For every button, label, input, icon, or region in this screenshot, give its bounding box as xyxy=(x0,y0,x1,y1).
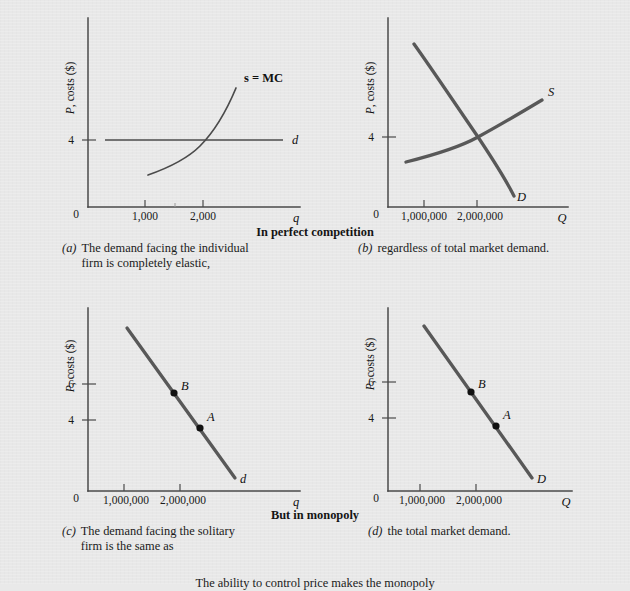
panel-c-xtick-label-1: 2,000,000 xyxy=(160,494,206,507)
panel-a-mc-curve xyxy=(148,88,236,175)
panel-a-ytick-label-0: 4 xyxy=(68,134,74,146)
panel-b-curve-label-d: D xyxy=(516,190,526,204)
band-but-in-monopoly: But in monopoly xyxy=(0,508,630,523)
panel-b-y-axis-title: P, costs ($) xyxy=(364,62,377,116)
panel-b-xtick-label-0: 1,000,000 xyxy=(401,210,447,223)
panel-a-origin-label: 0 xyxy=(73,208,79,220)
caption-c-letter: (c) xyxy=(62,524,76,539)
panel-c: 6 4 0 1,000,000 2,000,000 P, costs ($) q… xyxy=(0,288,320,518)
caption-c-line1: The demand facing the solitary xyxy=(81,524,235,538)
panel-b-origin-label: 0 xyxy=(373,208,379,220)
panel-c-point-a xyxy=(196,424,203,431)
panel-d-y-axis-title: P, costs ($) xyxy=(364,338,377,392)
panel-c-xtick-label-0: 1,000,000 xyxy=(103,494,149,507)
panel-c-x-axis-name: q xyxy=(293,495,299,509)
panel-d-point-a xyxy=(492,422,499,429)
panel-b: 4 0 1,000,000 2,000,000 P, costs ($) Q S… xyxy=(310,0,630,240)
panel-a-curve-label-mc: s = MC xyxy=(244,71,283,85)
panel-a-x-axis-name: q xyxy=(293,211,299,225)
caption-panel-c: (c) The demand facing the solitary firm … xyxy=(62,524,292,554)
panel-c-point-label-b: B xyxy=(181,379,189,393)
panel-b-xtick-label-1: 2,000,000 xyxy=(457,210,503,223)
panel-d: 6 4 0 1,000,000 2,000,000 P, costs ($) Q… xyxy=(310,288,630,518)
panel-d-xtick-label-1: 2,000,000 xyxy=(456,494,502,507)
panel-a: 4 0 1,000 2,000 P, costs ($) q d s = MC xyxy=(0,0,320,240)
panel-d-ytick-label-1: 4 xyxy=(368,412,374,424)
panel-d-point-label-a: A xyxy=(502,408,511,422)
panel-d-x-axis-name: Q xyxy=(561,495,570,509)
panel-b-curve-label-s: S xyxy=(548,85,555,99)
panel-c-origin-label: 0 xyxy=(73,492,79,504)
panel-d-point-label-b: B xyxy=(478,377,486,391)
caption-a-letter: (a) xyxy=(62,241,76,256)
band-perfect-competition: In perfect competition xyxy=(0,225,630,240)
panel-a-curve-label-d: d xyxy=(292,133,299,147)
caption-panel-b: (b) regardless of total market demand. xyxy=(358,241,608,256)
caption-panel-a: (a) The demand facing the individual fir… xyxy=(62,241,292,271)
panel-c-ytick-label-1: 4 xyxy=(68,414,74,426)
panel-d-xtick-label-0: 1,000,000 xyxy=(399,494,445,507)
figure-bottom-caption: The ability to control price makes the m… xyxy=(0,576,630,591)
panel-d-curve-label-d: D xyxy=(536,472,546,486)
caption-a-line2: firm is completely elastic, xyxy=(81,256,210,270)
caption-a-line1: The demand facing the individual xyxy=(81,241,248,255)
panel-b-ytick-label-0: 4 xyxy=(368,131,374,143)
panel-a-y-axis-title: P, costs ($) xyxy=(64,62,77,116)
caption-d-letter: (d) xyxy=(368,524,382,539)
panel-c-y-axis-title: P, costs ($) xyxy=(64,340,77,394)
caption-d-line1: the total market demand. xyxy=(387,524,510,538)
panel-b-x-axis-name: Q xyxy=(557,211,566,225)
panel-c-demand-curve xyxy=(127,328,235,478)
panel-c-point-label-a: A xyxy=(206,410,215,424)
panel-d-point-b xyxy=(467,388,474,395)
caption-c-line2: firm is the same as xyxy=(81,539,174,553)
caption-b-line1: regardless of total market demand. xyxy=(377,241,549,255)
panel-a-xtick-label-0: 1,000 xyxy=(132,210,158,223)
caption-panel-d: (d) the total market demand. xyxy=(368,524,618,539)
panel-d-origin-label: 0 xyxy=(373,492,379,504)
panel-c-curve-label-d: d xyxy=(240,472,247,486)
panel-d-demand-curve xyxy=(424,326,532,478)
panel-b-demand-curve xyxy=(414,44,514,196)
caption-b-letter: (b) xyxy=(358,241,372,256)
panel-c-point-b xyxy=(170,389,177,396)
panel-a-xtick-label-1: 2,000 xyxy=(190,210,216,223)
